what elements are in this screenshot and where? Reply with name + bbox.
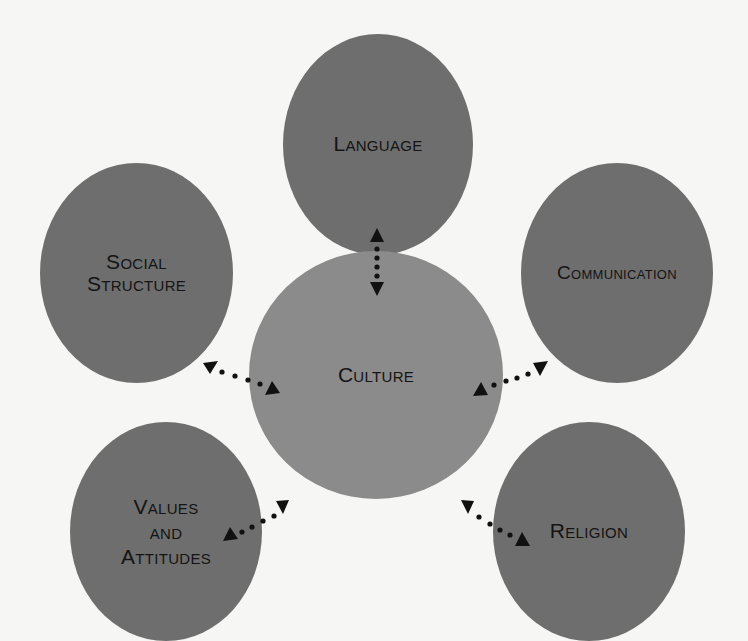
node-culture: Culture bbox=[249, 251, 503, 499]
node-values-and-attitudes-label: Values and Attitudes bbox=[121, 494, 211, 570]
node-religion: Religion bbox=[493, 422, 685, 641]
node-social-structure: Social Structure bbox=[40, 163, 233, 383]
node-values-and-attitudes: Values and Attitudes bbox=[70, 422, 262, 641]
node-communication-label: Communication bbox=[557, 263, 677, 283]
node-language: Language bbox=[283, 34, 473, 255]
arrowhead-down-icon bbox=[276, 500, 289, 514]
node-language-label: Language bbox=[333, 133, 422, 155]
arrowhead-right-icon bbox=[533, 361, 548, 376]
arrowhead-down-icon bbox=[461, 500, 474, 514]
culture-diagram: Language Social Structure Communication … bbox=[0, 0, 748, 641]
node-religion-label: Religion bbox=[550, 520, 628, 542]
node-social-structure-label: Social Structure bbox=[87, 251, 186, 295]
node-culture-label: Culture bbox=[338, 364, 414, 386]
arrowhead-left-icon bbox=[203, 361, 218, 374]
node-communication: Communication bbox=[521, 163, 713, 383]
